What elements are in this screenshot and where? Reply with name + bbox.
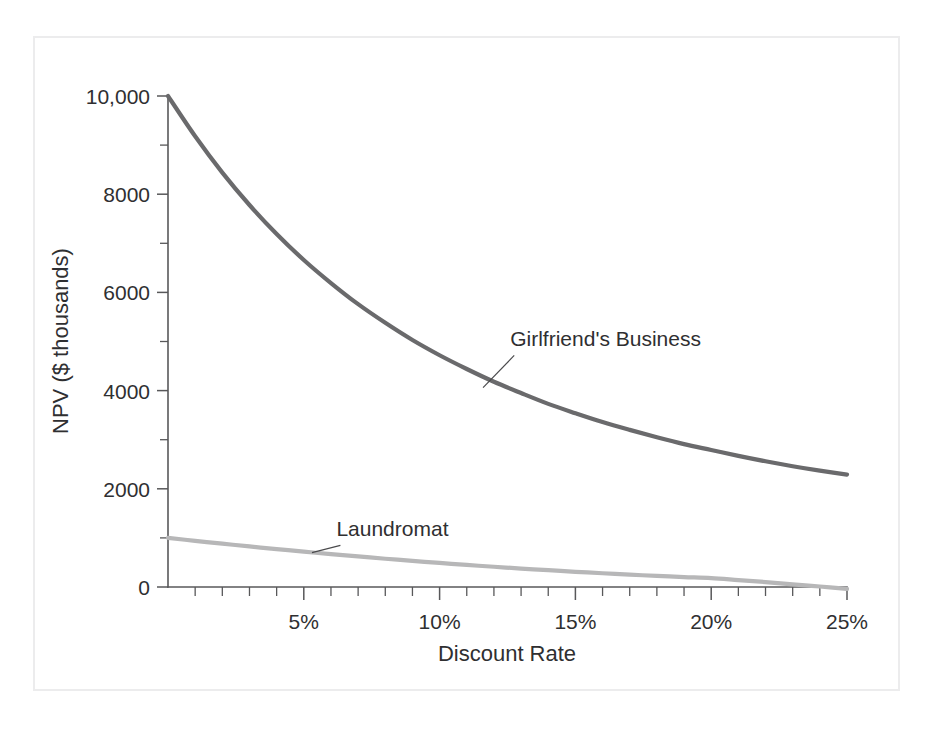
annotation-leader-line bbox=[312, 545, 340, 552]
x-tick-label: 10% bbox=[419, 610, 461, 633]
y-axis-title: NPV ($ thousands) bbox=[48, 248, 73, 434]
y-axis-tick-labels: 0200040006000800010,000 bbox=[86, 85, 150, 599]
series-line-laundromat bbox=[168, 538, 847, 589]
series-label-girlfriend-s-business: Girlfriend's Business bbox=[510, 327, 701, 350]
y-tick-label: 4000 bbox=[103, 380, 150, 403]
x-tick-label: 15% bbox=[554, 610, 596, 633]
y-tick-label: 8000 bbox=[103, 183, 150, 206]
series-line-girlfriend-s-business bbox=[168, 96, 847, 475]
axes-group bbox=[168, 96, 847, 587]
npv-sensitivity-chart: 0200040006000800010,000 5%10%15%20%25% G… bbox=[35, 38, 902, 693]
data-series-group bbox=[168, 96, 847, 589]
y-tick-label: 10,000 bbox=[86, 85, 150, 108]
y-tick-label: 6000 bbox=[103, 281, 150, 304]
x-axis-tick-labels: 5%10%15%20%25% bbox=[289, 610, 868, 633]
y-tick-label: 2000 bbox=[103, 478, 150, 501]
figure-root: 0200040006000800010,000 5%10%15%20%25% G… bbox=[0, 0, 941, 734]
x-axis-ticks bbox=[195, 587, 847, 600]
x-tick-label: 20% bbox=[690, 610, 732, 633]
x-tick-label: 25% bbox=[826, 610, 868, 633]
y-tick-label: 0 bbox=[138, 576, 150, 599]
series-annotations-group: Girlfriend's BusinessLaundromat bbox=[312, 327, 701, 552]
x-tick-label: 5% bbox=[289, 610, 319, 633]
x-axis-title: Discount Rate bbox=[438, 641, 576, 666]
series-label-laundromat: Laundromat bbox=[336, 517, 448, 540]
figure-frame: 0200040006000800010,000 5%10%15%20%25% G… bbox=[33, 36, 900, 691]
y-axis-ticks bbox=[157, 96, 168, 587]
